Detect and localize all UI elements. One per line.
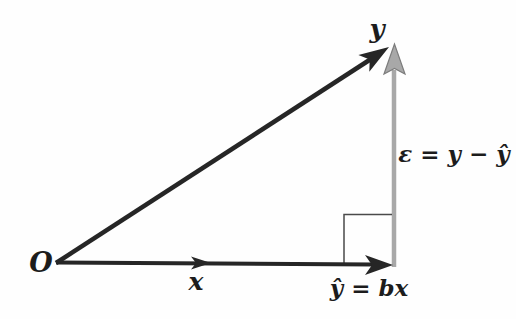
residual-label: ε = y − ŷ bbox=[398, 140, 511, 167]
right-angle-marker bbox=[344, 215, 392, 264]
y-vector-shaft bbox=[56, 59, 371, 263]
vector-projection-figure: O y x ŷ = bx ε = y − ŷ bbox=[0, 0, 516, 319]
origin-label: O bbox=[29, 247, 53, 278]
projection-label: ŷ = bx bbox=[329, 274, 409, 301]
y-vector-label: y bbox=[368, 14, 386, 44]
y-vector bbox=[56, 47, 389, 263]
x-vector-shaft bbox=[56, 263, 374, 265]
x-vector bbox=[56, 255, 393, 275]
diagram-canvas: O y x ŷ = bx ε = y − ŷ bbox=[0, 0, 516, 319]
x-vector-label: x bbox=[188, 267, 205, 296]
y-arrowhead-icon bbox=[358, 47, 389, 72]
